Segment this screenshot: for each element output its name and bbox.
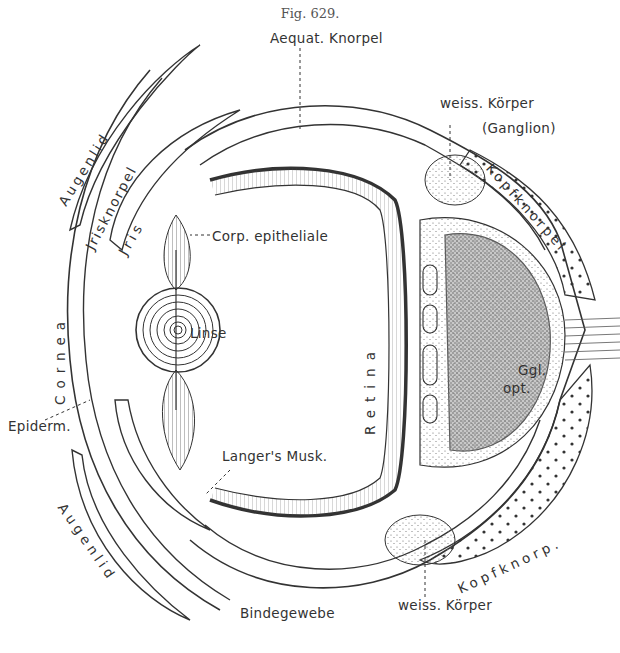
label-ganglion: (Ganglion) <box>482 120 556 136</box>
label-opt: opt. <box>503 380 531 396</box>
label-linse: Linse <box>190 325 227 341</box>
label-retina: Retina <box>362 344 378 435</box>
label-langers-musk: Langer's Musk. <box>222 448 327 464</box>
corpus-epitheliale-upper <box>164 215 190 290</box>
label-corp-epitheliale: Corp. epitheliale <box>212 228 328 244</box>
label-aequat-knorpel: Aequat. Knorpel <box>270 30 383 46</box>
label-ggl: Ggl. <box>518 362 546 378</box>
label-bindegewebe: Bindegewebe <box>240 605 335 621</box>
label-cornea: Cornea <box>52 315 68 405</box>
weiss-koerper-bottom-shape <box>385 515 455 565</box>
label-weiss-koerper-bottom: weiss. Körper <box>398 597 492 613</box>
label-epiderm: Epiderm. <box>8 418 71 434</box>
label-weiss-koerper-top: weiss. Körper <box>440 95 534 111</box>
weiss-koerper-top-shape <box>425 155 485 205</box>
corpus-epitheliale-lower <box>162 370 194 470</box>
